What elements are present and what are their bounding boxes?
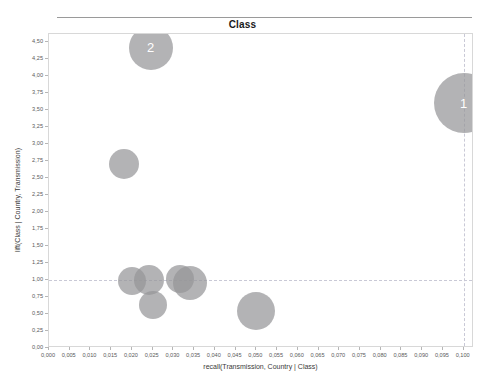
y-tick-mark (45, 58, 48, 59)
y-tick-label: 3,50 (20, 106, 43, 112)
y-tick-mark (45, 313, 48, 314)
y-tick-label: 1,25 (20, 259, 43, 265)
y-tick-mark (45, 75, 48, 76)
x-tick-mark (152, 347, 153, 350)
y-tick-label: 0,00 (20, 344, 43, 350)
x-tick-mark (172, 347, 173, 350)
x-tick-mark (297, 347, 298, 350)
data-bubble[interactable] (109, 149, 139, 179)
y-tick-mark (45, 279, 48, 280)
x-tick-mark (110, 347, 111, 350)
y-tick-mark (45, 143, 48, 144)
plot-area: 12 (48, 33, 473, 347)
data-bubble[interactable] (139, 291, 167, 319)
y-tick-mark (45, 228, 48, 229)
x-tick-mark (421, 347, 422, 350)
data-bubble[interactable] (237, 292, 275, 330)
y-tick-label: 2,75 (20, 157, 43, 163)
title-divider (57, 17, 472, 18)
y-tick-mark (45, 126, 48, 127)
y-tick-label: 3,25 (20, 123, 43, 129)
x-tick-mark (380, 347, 381, 350)
y-tick-mark (45, 330, 48, 331)
x-tick-mark (463, 347, 464, 350)
y-tick-mark (45, 211, 48, 212)
x-tick-mark (276, 347, 277, 350)
y-tick-label: 4,25 (20, 55, 43, 61)
chart-root: Class 12 0,000,250,500,751,001,251,501,7… (0, 0, 485, 391)
y-tick-label: 0,50 (20, 310, 43, 316)
y-tick-label: 2,25 (20, 191, 43, 197)
y-tick-mark (45, 245, 48, 246)
y-tick-mark (45, 41, 48, 42)
x-tick-mark (359, 347, 360, 350)
y-tick-label: 0,75 (20, 293, 43, 299)
y-tick-mark (45, 296, 48, 297)
y-tick-mark (45, 262, 48, 263)
y-tick-label: 0,25 (20, 327, 43, 333)
data-bubble[interactable]: 2 (129, 33, 173, 70)
data-bubble[interactable] (173, 266, 207, 300)
x-tick-mark (235, 347, 236, 350)
x-tick-mark (69, 347, 70, 350)
y-tick-mark (45, 194, 48, 195)
y-axis-label: lift(Class | Country, Transmission) (14, 148, 21, 252)
bubble-label: 2 (147, 40, 154, 55)
x-tick-mark (89, 347, 90, 350)
chart-title: Class (0, 19, 485, 30)
y-tick-mark (45, 160, 48, 161)
y-tick-mark (45, 177, 48, 178)
y-tick-label: 1,75 (20, 225, 43, 231)
y-tick-label: 2,50 (20, 174, 43, 180)
gridline-horizontal (49, 280, 472, 281)
bubble-label: 1 (460, 96, 467, 111)
x-tick-mark (193, 347, 194, 350)
x-axis-label: recall(Transmission, Country | Class) (48, 363, 473, 370)
x-tick-mark (338, 347, 339, 350)
x-tick-mark (400, 347, 401, 350)
x-tick-label: 0,100 (449, 352, 477, 358)
x-tick-mark (255, 347, 256, 350)
y-tick-mark (45, 109, 48, 110)
y-tick-label: 3,00 (20, 140, 43, 146)
y-tick-mark (45, 92, 48, 93)
y-tick-label: 1,50 (20, 242, 43, 248)
y-tick-label: 2,00 (20, 208, 43, 214)
x-tick-mark (214, 347, 215, 350)
x-tick-mark (131, 347, 132, 350)
x-tick-mark (318, 347, 319, 350)
data-bubble[interactable]: 1 (434, 73, 473, 133)
y-tick-label: 4,50 (20, 38, 43, 44)
y-tick-label: 1,00 (20, 276, 43, 282)
x-tick-mark (442, 347, 443, 350)
x-tick-mark (48, 347, 49, 350)
y-tick-label: 4,00 (20, 72, 43, 78)
y-tick-label: 3,75 (20, 89, 43, 95)
